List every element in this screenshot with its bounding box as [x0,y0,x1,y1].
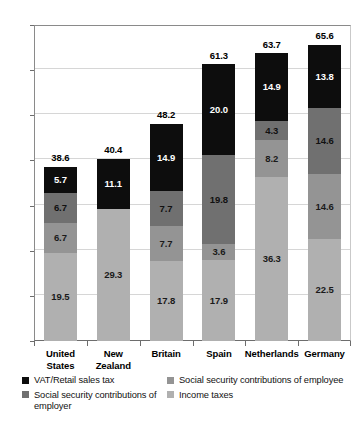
bar-segment[interactable]: 17.8 [150,261,183,341]
bar-segment[interactable]: 19.5 [44,253,77,341]
bars-layer: 5.76.76.719.538.611.129.340.414.97.77.71… [34,25,351,341]
bar-segment[interactable]: 7.7 [150,191,183,226]
bar-segment[interactable]: 29.3 [97,209,130,341]
bar-total-label: 48.2 [138,110,195,120]
bar-total-label: 40.4 [85,145,142,155]
legend-column-right: Social security contributions of employe… [167,375,357,404]
bar-segment[interactable]: 7.7 [150,226,183,261]
bar-segment[interactable]: 3.6 [202,244,235,260]
bar-stack[interactable]: 13.814.614.622.5 [308,45,341,341]
bar-segment[interactable]: 17.9 [202,260,235,341]
bar-segment-value-label: 7.7 [160,204,173,214]
bar-segment-value-label: 3.6 [212,247,225,257]
bar-segment[interactable]: 6.7 [44,193,77,223]
bar-segment[interactable]: 6.7 [44,223,77,253]
x-axis-tick-mark [350,341,351,346]
bar-segment-value-label: 7.7 [160,239,173,249]
bar-segment-value-label: 22.5 [316,285,334,295]
bar-segment-value-label: 14.9 [157,153,175,163]
legend-item-label: Income taxes [179,390,233,401]
bar-segment-value-label: 17.8 [157,296,175,306]
legend-item[interactable]: VAT/Retail sales tax [22,375,172,386]
bar-segment[interactable]: 5.7 [44,167,77,193]
bar-segment-value-label: 29.3 [104,270,122,280]
x-axis-tick-mark [87,341,88,346]
bar-segment-value-label: 14.9 [263,82,281,92]
chart-legend: VAT/Retail sales taxSocial security cont… [22,375,358,425]
legend-swatch-icon [167,377,174,384]
bar-segment[interactable]: 36.3 [255,177,288,341]
bar-segment-value-label: 4.3 [265,126,278,136]
bar-segment-value-label: 13.8 [316,72,334,82]
bar-group[interactable]: 5.76.76.719.538.6 [44,25,77,341]
bar-segment[interactable]: 22.5 [308,239,341,341]
stacked-bar-chart: 010203040506070 5.76.76.719.538.611.129.… [0,0,362,427]
bar-segment-value-label: 6.7 [54,233,67,243]
bar-group[interactable]: 14.94.38.236.363.7 [255,25,288,341]
legend-item[interactable]: Income taxes [167,390,357,401]
legend-item[interactable]: Social security contributions of employe… [167,375,357,386]
x-axis-tick-mark [193,341,194,346]
bar-segment-value-label: 20.0 [210,105,228,115]
x-axis-tick-mark [298,341,299,346]
bar-segment-value-label: 14.6 [316,202,334,212]
bar-segment-value-label: 5.7 [54,175,67,185]
bar-stack[interactable]: 14.97.77.717.8 [150,124,183,341]
legend-swatch-icon [22,377,29,384]
bar-stack[interactable]: 20.019.83.617.9 [202,64,235,341]
bar-segment[interactable]: 14.9 [150,124,183,191]
x-axis-category-label: Germany [292,348,357,360]
x-axis-tick-mark [140,341,141,346]
bar-segment-value-label: 6.7 [54,203,67,213]
bar-segment[interactable]: 13.8 [308,45,341,107]
x-axis-ticks [34,341,351,347]
bar-segment-value-label: 19.5 [51,292,69,302]
bar-segment[interactable]: 14.6 [308,174,341,240]
x-axis-category-label-line: Germany [292,348,357,360]
x-axis-tick-mark [245,341,246,346]
x-axis-category-label-line: Zealand [81,360,146,372]
bar-segment[interactable]: 20.0 [202,64,235,154]
bar-segment-value-label: 8.2 [265,154,278,164]
legend-item-label: VAT/Retail sales tax [34,375,114,386]
bar-total-label: 63.7 [243,40,300,50]
bar-segment[interactable]: 4.3 [255,121,288,140]
bar-stack[interactable]: 14.94.38.236.3 [255,53,288,341]
bar-segment-value-label: 17.9 [210,296,228,306]
bar-segment[interactable]: 14.6 [308,108,341,174]
bar-stack[interactable]: 11.129.3 [97,159,130,341]
bar-group[interactable]: 14.97.77.717.848.2 [150,25,183,341]
bar-segment[interactable]: 14.9 [255,53,288,120]
bar-segment-value-label: 19.8 [210,195,228,205]
x-axis-labels: UnitedStatesNewZealandBritainSpainNether… [34,348,351,376]
bar-segment[interactable]: 11.1 [97,159,130,209]
legend-item[interactable]: Social security contributions of employe… [22,390,172,412]
bar-segment-value-label: 14.6 [316,136,334,146]
legend-item-label: Social security contributions of employe… [34,390,172,412]
bar-total-label: 38.6 [32,153,89,163]
legend-swatch-icon [167,391,174,398]
bar-total-label: 65.6 [296,31,353,41]
legend-item-label: Social security contributions of employe… [179,375,343,386]
bar-group[interactable]: 20.019.83.617.961.3 [202,25,235,341]
bar-group[interactable]: 13.814.614.622.565.6 [308,25,341,341]
bar-segment[interactable]: 8.2 [255,140,288,177]
bar-stack[interactable]: 5.76.76.719.5 [44,167,77,341]
legend-column-left: VAT/Retail sales taxSocial security cont… [22,375,172,415]
bar-segment[interactable]: 19.8 [202,155,235,244]
x-axis-tick-mark [34,341,35,346]
bar-segment-value-label: 36.3 [263,254,281,264]
bar-total-label: 61.3 [190,51,247,61]
legend-swatch-icon [22,391,29,398]
bar-segment-value-label: 11.1 [104,179,122,189]
bar-group[interactable]: 11.129.340.4 [97,25,130,341]
